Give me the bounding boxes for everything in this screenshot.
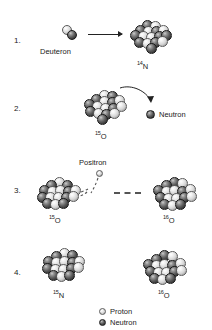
deuteron-cluster bbox=[62, 25, 78, 41]
proton-sphere bbox=[186, 191, 197, 202]
neutron-sphere bbox=[175, 199, 186, 210]
legend-label-neutron: Neutron bbox=[110, 318, 137, 327]
proton-sphere bbox=[157, 36, 168, 47]
oxygen-16-label-step3: 16O bbox=[163, 214, 175, 225]
oxygen-15-label-step2: 15O bbox=[95, 130, 107, 141]
positron-label: Positron bbox=[79, 158, 107, 167]
nitrogen-14-cluster bbox=[128, 20, 172, 54]
proton-sphere bbox=[176, 265, 187, 276]
step-number-3: 3. bbox=[14, 186, 21, 195]
oxygen-16-label-step4: 16O bbox=[158, 289, 170, 300]
legend: Proton Neutron bbox=[99, 306, 137, 328]
oxygen-15-label-step3: 15O bbox=[49, 214, 61, 225]
neutron-sphere bbox=[58, 198, 69, 209]
legend-label-proton: Proton bbox=[110, 307, 132, 316]
diagram-canvas: 1. Deuteron 14N 2. 15O Neutron 3. Positr… bbox=[0, 0, 212, 330]
oxygen-16-cluster-step4 bbox=[143, 250, 187, 284]
emitted-neutron-label: Neutron bbox=[159, 110, 186, 119]
reaction-arrow-1 bbox=[88, 34, 122, 35]
oxygen-15-cluster-step2 bbox=[82, 90, 126, 124]
step-number-2: 2. bbox=[14, 104, 21, 113]
legend-item-neutron: Neutron bbox=[99, 317, 137, 328]
neutron-sphere bbox=[97, 114, 108, 125]
neutron-icon bbox=[99, 319, 106, 326]
nitrogen-15-cluster bbox=[41, 248, 85, 282]
step-number-1: 1. bbox=[14, 36, 21, 45]
nitrogen-15-label: 15N bbox=[53, 289, 64, 300]
proton-sphere bbox=[68, 191, 79, 202]
proton-sphere bbox=[109, 108, 120, 119]
nitrogen-14-label: 14N bbox=[137, 60, 148, 71]
neutron-sphere bbox=[146, 43, 157, 54]
neutron-sphere bbox=[165, 273, 176, 284]
proton-icon bbox=[99, 308, 106, 315]
oxygen-16-cluster-step3 bbox=[153, 177, 197, 211]
oxygen-15-cluster-step3 bbox=[36, 177, 80, 211]
step-number-4: 4. bbox=[14, 268, 21, 277]
deuteron-label: Deuteron bbox=[40, 47, 71, 56]
step3-connector-dashes bbox=[114, 192, 141, 194]
emitted-neutron-sphere bbox=[146, 110, 155, 119]
neutron-sphere bbox=[67, 30, 77, 40]
neutron-sphere bbox=[64, 270, 75, 281]
legend-item-proton: Proton bbox=[99, 306, 137, 317]
proton-sphere bbox=[73, 262, 84, 273]
